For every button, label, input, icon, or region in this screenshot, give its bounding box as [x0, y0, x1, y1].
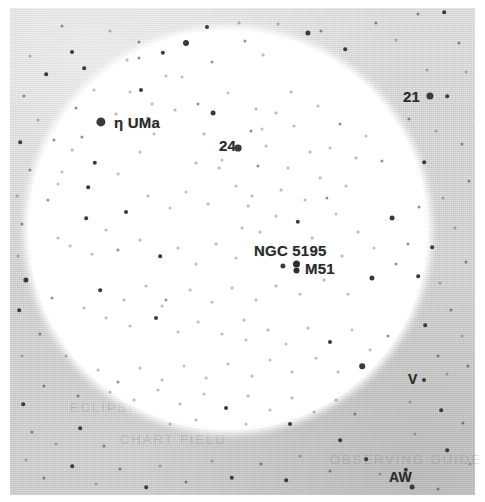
- star-marker: [161, 379, 164, 382]
- star-marker: [293, 125, 296, 128]
- star-marker: [275, 112, 278, 115]
- star-marker: [373, 247, 376, 250]
- star-marker: [309, 151, 312, 154]
- star-marker: [304, 199, 307, 202]
- star-marker: [203, 133, 206, 136]
- star-marker: [445, 94, 449, 98]
- star-marker: [416, 274, 420, 278]
- star-marker: [442, 10, 446, 14]
- star-marker: [357, 231, 360, 234]
- chart-label-m51: M51: [305, 260, 335, 277]
- star-marker: [211, 460, 214, 463]
- star-marker: [93, 89, 96, 92]
- star-marker: [17, 308, 21, 312]
- star-marker: [169, 423, 172, 426]
- star-marker: [16, 195, 19, 198]
- star-marker: [351, 329, 354, 332]
- star-marker: [290, 91, 293, 94]
- star-marker: [337, 371, 340, 374]
- star-marker: [345, 185, 348, 188]
- star-marker: [203, 393, 206, 396]
- star-marker: [61, 171, 64, 174]
- eyepiece-field-of-view-circle: [28, 30, 428, 430]
- star-marker: [185, 191, 188, 194]
- star-marker: [195, 263, 198, 266]
- star-marker: [221, 333, 224, 336]
- star-marker: [328, 340, 332, 344]
- star-marker: [410, 485, 415, 490]
- star-marker: [91, 253, 94, 256]
- star-marker: [439, 282, 442, 285]
- star-marker: [139, 367, 142, 370]
- star-marker: [465, 71, 468, 74]
- star-marker: [422, 378, 426, 382]
- star-marker: [211, 111, 216, 116]
- star-marker: [71, 149, 74, 152]
- star-marker: [426, 69, 429, 72]
- star-marker: [78, 426, 82, 430]
- star-marker: [235, 185, 238, 188]
- star-marker: [205, 25, 209, 29]
- star-marker: [139, 239, 142, 242]
- star-marker: [369, 349, 372, 352]
- star-marker: [82, 66, 86, 70]
- chart-label-var-aw: AW: [389, 469, 412, 485]
- star-marker: [255, 299, 258, 302]
- star-marker: [238, 22, 241, 25]
- star-marker: [311, 237, 314, 240]
- star-marker: [359, 363, 365, 369]
- star-marker: [165, 75, 168, 78]
- star-marker: [435, 130, 438, 133]
- galaxy-core-lobe: [293, 261, 300, 268]
- star-marker: [183, 40, 189, 46]
- chart-label-ngc-5195: NGC 5195: [254, 242, 326, 259]
- star-marker: [269, 409, 272, 412]
- star-marker: [169, 207, 172, 210]
- star-marker: [379, 473, 382, 476]
- star-marker: [158, 254, 162, 258]
- star-marker: [315, 357, 318, 360]
- star-marker: [390, 216, 395, 221]
- star-marker: [144, 485, 148, 489]
- star-marker: [430, 245, 434, 249]
- star-marker: [299, 293, 302, 296]
- star-marker: [329, 147, 332, 150]
- star-marker: [154, 316, 158, 320]
- star-marker: [247, 395, 250, 398]
- star-marker: [275, 215, 278, 218]
- star-marker: [307, 327, 310, 330]
- star-marker: [442, 197, 445, 200]
- star-marker: [299, 455, 302, 458]
- star-marker: [423, 323, 427, 327]
- star-marker: [227, 363, 230, 366]
- star-marker: [245, 339, 248, 342]
- star-marker: [157, 389, 160, 392]
- star-marker: [241, 227, 244, 230]
- star-marker: [414, 433, 417, 436]
- star-marker: [445, 448, 449, 452]
- star-marker: [313, 411, 316, 414]
- star-marker: [159, 465, 162, 468]
- star-marker: [153, 133, 156, 136]
- star-marker: [161, 305, 164, 308]
- star-marker: [365, 135, 368, 138]
- star-marker: [243, 319, 246, 322]
- galaxy-glyph-m51: [293, 261, 300, 274]
- star-marker: [57, 237, 60, 240]
- star-marker: [461, 335, 464, 338]
- star-marker: [65, 355, 68, 358]
- star-marker: [285, 343, 288, 346]
- star-marker: [317, 105, 320, 108]
- star-marker: [338, 438, 342, 442]
- star-marker: [323, 279, 326, 282]
- star-marker: [18, 140, 22, 144]
- star-marker: [147, 195, 150, 198]
- star-marker: [133, 399, 136, 402]
- chart-label-var-v: V: [408, 371, 418, 387]
- star-marker: [469, 463, 472, 466]
- star-marker: [197, 321, 200, 324]
- star-marker: [280, 189, 283, 192]
- star-marker: [109, 30, 112, 33]
- star-marker: [422, 160, 426, 164]
- star-marker: [25, 459, 28, 462]
